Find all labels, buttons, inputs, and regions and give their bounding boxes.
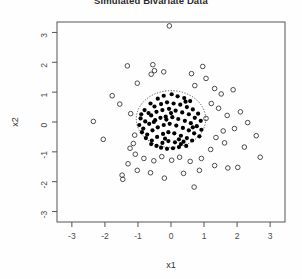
data-point-filled bbox=[190, 138, 194, 142]
data-point-filled bbox=[156, 125, 160, 129]
data-point-filled bbox=[179, 134, 183, 138]
data-point-open bbox=[177, 155, 182, 160]
data-point-open bbox=[149, 72, 154, 77]
data-point-filled bbox=[149, 142, 153, 146]
y-tick-label: 3 bbox=[39, 33, 49, 38]
data-point-filled bbox=[185, 105, 189, 109]
data-point-filled bbox=[152, 104, 156, 108]
data-point-open bbox=[189, 71, 194, 76]
data-point-open bbox=[216, 106, 221, 111]
x-tick-label: -2 bbox=[101, 231, 109, 241]
data-point-filled bbox=[180, 110, 184, 114]
data-point-open bbox=[135, 81, 140, 86]
data-point-open bbox=[152, 159, 157, 164]
data-point-filled bbox=[174, 109, 178, 113]
data-point-filled bbox=[184, 144, 188, 148]
data-point-filled bbox=[150, 128, 154, 132]
data-point-filled bbox=[176, 117, 180, 121]
data-point-filled bbox=[164, 118, 168, 122]
data-point-filled bbox=[182, 96, 186, 100]
data-point-open bbox=[169, 158, 174, 163]
y-tick-label: -3 bbox=[39, 211, 49, 219]
data-point-filled bbox=[170, 92, 174, 96]
data-point-filled bbox=[156, 97, 160, 101]
data-point-filled bbox=[197, 134, 201, 138]
data-point-open bbox=[192, 83, 197, 88]
data-point-open bbox=[128, 146, 133, 151]
data-point-open bbox=[188, 159, 193, 164]
data-point-open bbox=[148, 170, 153, 175]
data-point-filled bbox=[171, 146, 175, 150]
data-point-open bbox=[221, 129, 226, 134]
data-points-layer bbox=[91, 24, 262, 190]
data-point-filled bbox=[178, 103, 182, 107]
data-point-open bbox=[254, 133, 259, 138]
data-point-open bbox=[135, 168, 140, 173]
data-point-filled bbox=[166, 130, 170, 134]
plot-canvas: -3-2-10123 -3-2-10123 x1 x2 bbox=[0, 0, 302, 279]
data-point-filled bbox=[154, 110, 158, 114]
data-point-open bbox=[167, 24, 172, 29]
data-point-open bbox=[214, 135, 219, 140]
data-point-filled bbox=[187, 128, 191, 132]
data-point-filled bbox=[191, 107, 195, 111]
data-point-filled bbox=[150, 138, 154, 142]
data-point-filled bbox=[144, 136, 148, 140]
data-point-open bbox=[219, 92, 224, 97]
data-point-filled bbox=[159, 146, 163, 150]
data-point-filled bbox=[170, 115, 174, 119]
data-point-filled bbox=[191, 125, 195, 129]
data-point-filled bbox=[176, 94, 180, 98]
data-point-open bbox=[131, 141, 136, 146]
data-point-open bbox=[151, 62, 156, 67]
data-point-open bbox=[209, 101, 214, 106]
data-point-open bbox=[126, 161, 131, 166]
data-point-open bbox=[128, 111, 133, 116]
data-point-open bbox=[199, 156, 204, 161]
data-point-open bbox=[225, 113, 230, 118]
data-point-open bbox=[245, 120, 250, 125]
data-point-filled bbox=[183, 100, 187, 104]
data-point-filled bbox=[137, 123, 141, 127]
data-point-open bbox=[231, 87, 236, 92]
data-point-filled bbox=[140, 130, 144, 134]
data-point-open bbox=[238, 110, 243, 115]
data-point-filled bbox=[160, 141, 164, 145]
data-point-filled bbox=[139, 116, 143, 120]
data-point-filled bbox=[165, 100, 169, 104]
y-tick-label: 0 bbox=[39, 122, 49, 127]
data-point-filled bbox=[168, 122, 172, 126]
data-point-filled bbox=[188, 99, 192, 103]
data-point-filled bbox=[172, 101, 176, 105]
data-point-filled bbox=[195, 124, 199, 128]
y-axis-title: x2 bbox=[10, 117, 20, 127]
data-point-open bbox=[212, 86, 217, 91]
data-point-open bbox=[204, 76, 209, 81]
data-point-open bbox=[242, 145, 247, 150]
data-point-filled bbox=[139, 112, 143, 116]
data-point-filled bbox=[145, 132, 149, 136]
data-point-filled bbox=[165, 147, 169, 151]
data-point-filled bbox=[163, 137, 167, 141]
data-point-filled bbox=[141, 126, 145, 130]
data-point-open bbox=[162, 176, 167, 181]
data-point-filled bbox=[172, 131, 176, 135]
data-point-filled bbox=[193, 116, 197, 120]
data-point-open bbox=[142, 156, 147, 161]
data-point-open bbox=[117, 102, 122, 107]
data-point-filled bbox=[199, 119, 203, 123]
x-axis-title: x1 bbox=[166, 260, 176, 270]
data-point-filled bbox=[183, 119, 187, 123]
data-point-filled bbox=[187, 112, 191, 116]
data-point-open bbox=[125, 64, 130, 69]
data-point-filled bbox=[143, 119, 147, 123]
x-tick-label: 1 bbox=[202, 231, 207, 241]
data-point-filled bbox=[155, 135, 159, 139]
data-point-open bbox=[192, 185, 197, 190]
y-tick-label: 2 bbox=[39, 63, 49, 68]
data-point-filled bbox=[199, 128, 203, 132]
data-point-filled bbox=[148, 101, 152, 105]
data-point-filled bbox=[192, 131, 196, 135]
data-point-filled bbox=[167, 107, 171, 111]
data-point-filled bbox=[162, 94, 166, 98]
